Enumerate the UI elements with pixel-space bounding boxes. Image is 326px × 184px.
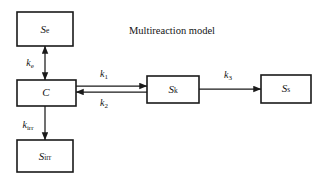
edge-kirr-label: kirr [22,119,34,132]
edge-ke-sub: e [31,62,34,70]
multireaction-model-figure: Multireaction model ke kirr k1 k2 k3 Se … [0,0,326,184]
figure-title: Multireaction model [129,25,215,36]
edge-k3-sub: 3 [228,74,232,82]
edge-k1-sub: 1 [104,73,108,81]
node-c-base: C [42,86,50,98]
edge-k3-label: k3 [224,69,232,82]
diagram-canvas: Multireaction model ke kirr k1 k2 k3 Se … [0,0,326,184]
node-sk-sub: k [174,86,178,95]
node-sirr-sub: irr [44,153,52,162]
edge-ke-label: ke [26,57,34,70]
edge-k1-label: k1 [100,68,108,81]
edge-k2-sub: 2 [104,102,108,110]
node-c-label: C [42,86,50,98]
edge-k2-label: k2 [100,97,108,110]
node-ss-sub: s [287,85,290,94]
edge-kirr-sub: irr [27,124,34,132]
